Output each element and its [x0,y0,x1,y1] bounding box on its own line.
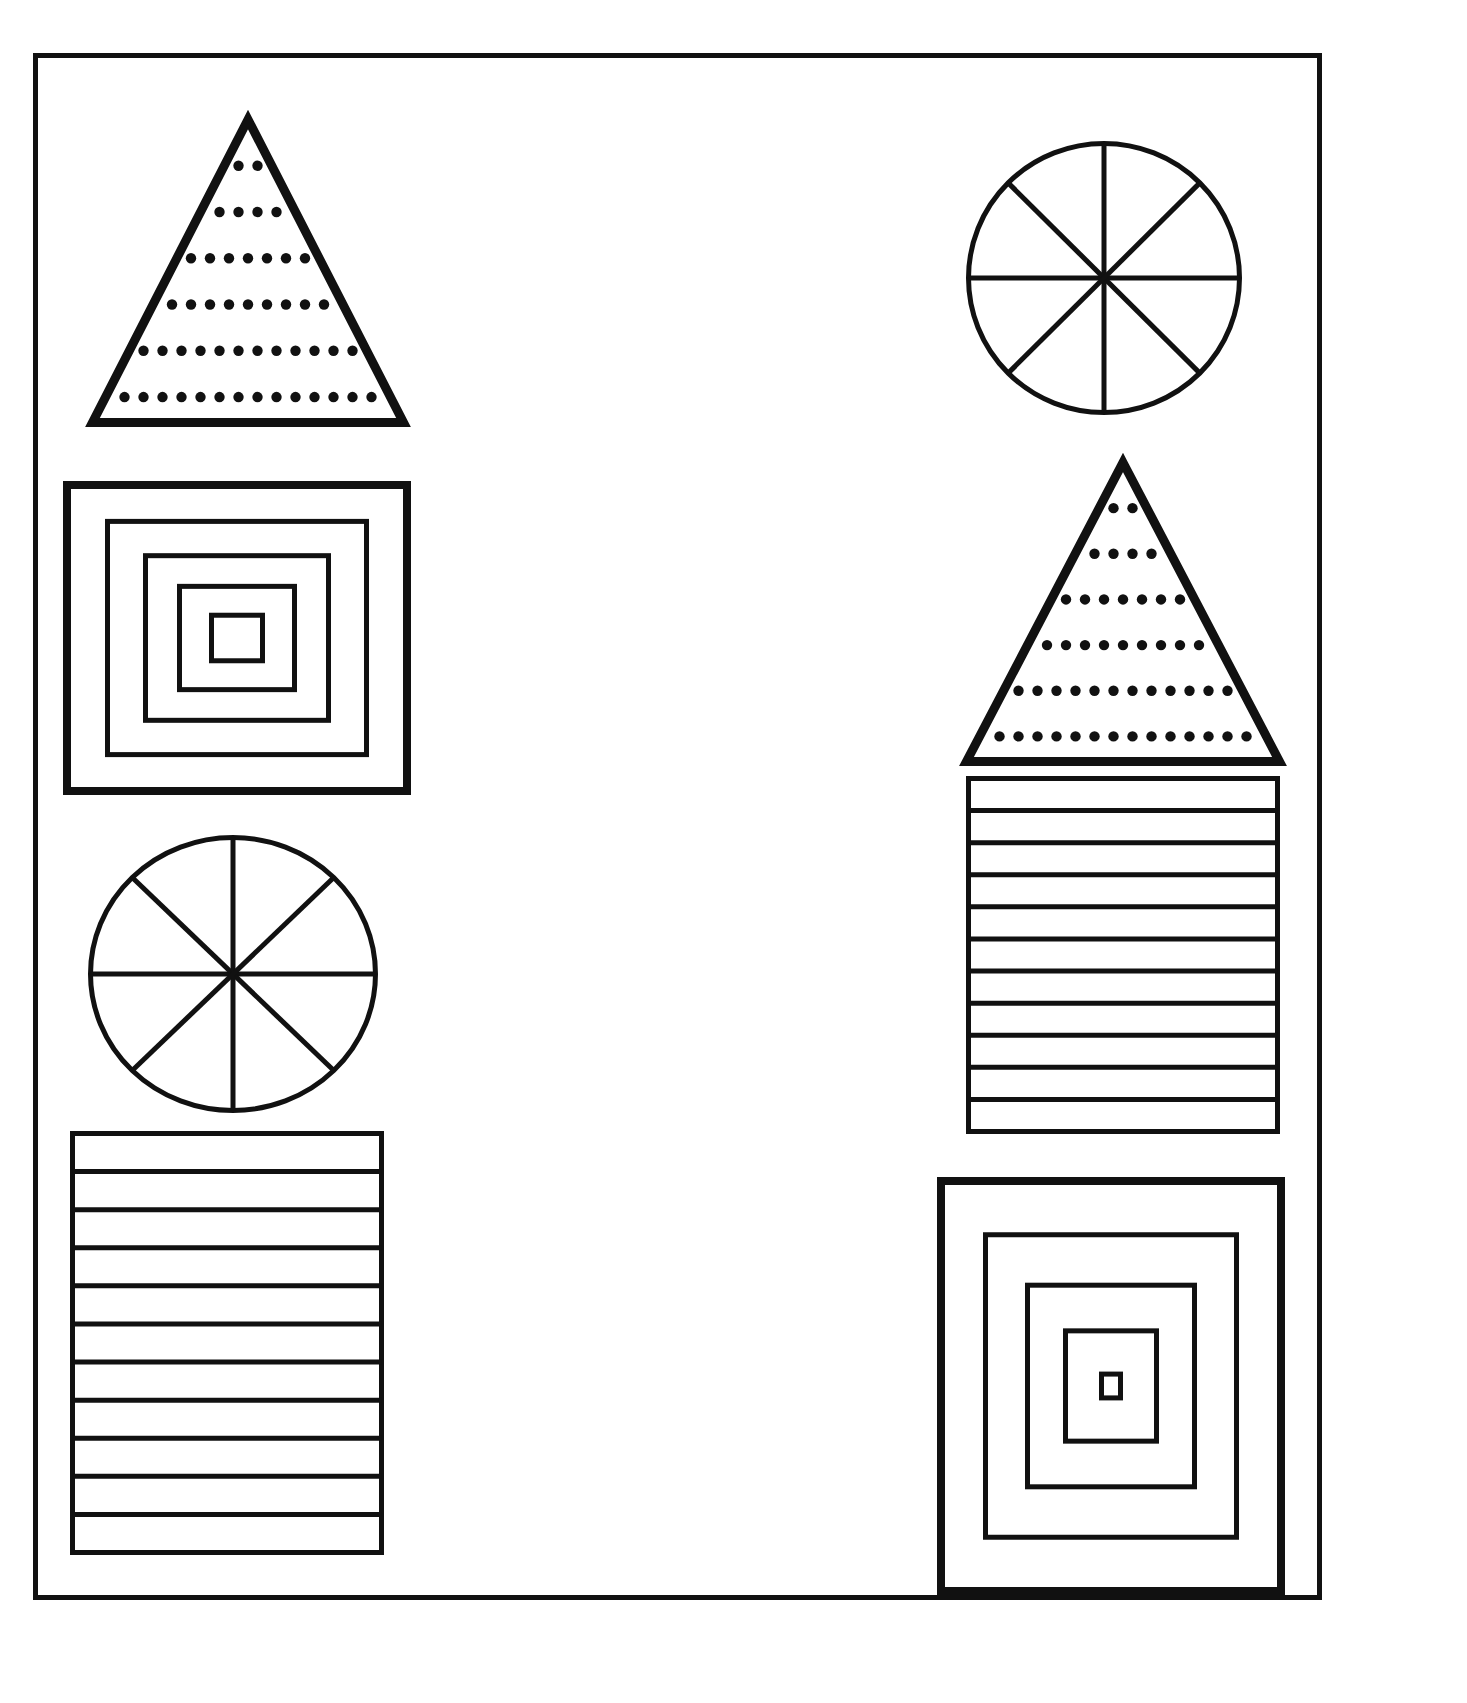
striped-rectangle-graphic [966,776,1280,1134]
right-dotted-triangle [962,458,1284,766]
right-spoked-circle [966,141,1242,415]
left-spoked-circle [88,835,378,1113]
dotted-triangle-graphic [962,458,1284,766]
left-striped-rectangle [70,1131,384,1555]
left-nested-squares [63,481,411,795]
right-nested-squares [937,1177,1285,1595]
spoked-circle-graphic [88,835,378,1113]
worksheet-page [0,0,1467,1703]
dotted-triangle-graphic [88,115,408,427]
nested-squares-graphic [937,1177,1285,1595]
spoked-circle-graphic [966,141,1242,415]
right-striped-rectangle [966,776,1280,1134]
striped-rectangle-graphic [70,1131,384,1555]
left-dotted-triangle [88,115,408,427]
nested-squares-graphic [63,481,411,795]
